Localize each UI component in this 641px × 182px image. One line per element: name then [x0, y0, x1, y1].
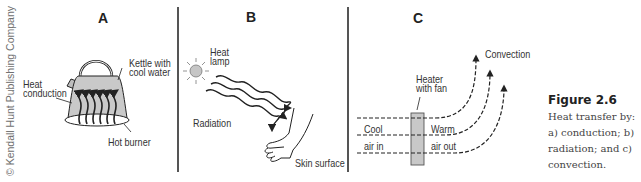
- radiation-label: Radiation: [193, 118, 231, 128]
- panel-c-letter: C: [413, 10, 423, 26]
- warm-label: Warm: [431, 124, 455, 134]
- caption-text-first: Heat: [548, 111, 573, 122]
- kettle-icon: [56, 61, 131, 132]
- panel-a-letter: A: [98, 10, 108, 26]
- heat-transfer-illustrations: [0, 0, 641, 182]
- kettle-label-line2: cool water: [129, 67, 170, 77]
- heater-with-fan-icon: [411, 97, 424, 165]
- figure-caption: Figure 2.6 Heat transfer by: a) conducti…: [548, 92, 640, 173]
- panel-b-letter: B: [246, 9, 256, 25]
- burner-label: Hot burner: [108, 137, 151, 147]
- conduction-label-line2: conduction: [23, 88, 67, 98]
- skin-surface-label: Skin surface: [295, 158, 345, 168]
- air-out-label: air out: [431, 141, 456, 151]
- heat-lamp-icon: [183, 58, 209, 84]
- cool-label: Cool: [364, 124, 383, 134]
- figure-number: Figure 2.6: [548, 93, 617, 107]
- air-in-label: air in: [364, 141, 384, 151]
- convection-label: Convection: [485, 49, 530, 59]
- heater-label-line2: with fan: [416, 83, 447, 93]
- lamp-label-line2: lamp: [210, 56, 230, 66]
